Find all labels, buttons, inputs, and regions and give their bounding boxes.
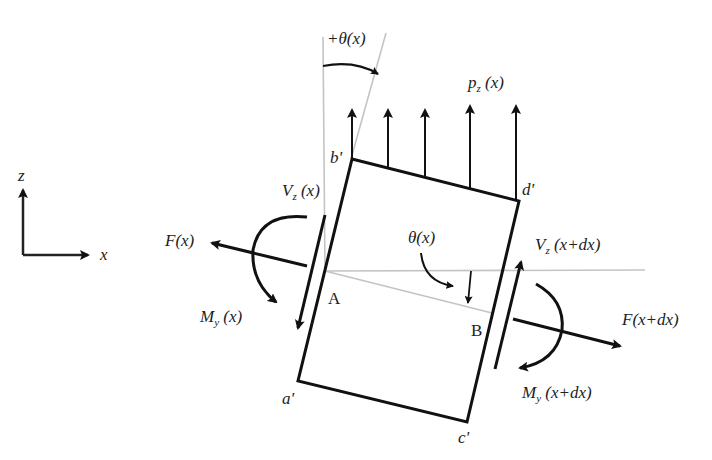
- pz-label: pz (x): [467, 73, 504, 94]
- shear-left-arrow: [298, 215, 325, 328]
- corner-d-label: d': [522, 180, 535, 199]
- z-axis-label: z: [17, 166, 25, 185]
- beam-element-diagram: z x +θ(x) pz (x) b' d' a' c' Vz (x) F(x)…: [0, 0, 712, 460]
- distributed-load-arrows: [352, 106, 516, 200]
- moment-left-label: My (x): [199, 307, 243, 328]
- theta-angle-arrow: [468, 271, 471, 303]
- theta-plus-arc-arrow: [323, 64, 378, 74]
- theta-label: θ(x): [408, 228, 436, 247]
- shear-left-label: Vz (x): [282, 181, 320, 202]
- axial-force-left-arrow: [212, 243, 307, 266]
- x-axis-label: x: [99, 245, 108, 264]
- corner-b-label: b': [330, 148, 343, 167]
- horizontal-reference-line: [325, 270, 645, 271]
- rotated-axis-line: [325, 271, 492, 313]
- shear-right-arrow: [495, 262, 521, 369]
- theta-pointer-arrow: [421, 253, 453, 286]
- theta-plus-label: +θ(x): [327, 29, 366, 48]
- axial-force-right-arrow: [513, 319, 620, 346]
- corner-a-label: a': [282, 389, 295, 408]
- vertical-reference-line: [323, 37, 325, 271]
- axial-force-right-label: F(x+dx): [621, 310, 679, 329]
- coordinate-axes: [23, 190, 88, 255]
- diagram-canvas: z x +θ(x) pz (x) b' d' a' c' Vz (x) F(x)…: [0, 0, 712, 460]
- point-b-label: B: [471, 321, 482, 340]
- rotated-normal-line: [351, 33, 386, 159]
- moment-right-label: My (x+dx): [521, 383, 592, 404]
- corner-c-label: c': [458, 428, 470, 447]
- axial-force-left-label: F(x): [164, 231, 195, 250]
- shear-right-label: Vz (x+dx): [535, 235, 601, 256]
- point-a-label: A: [328, 289, 341, 308]
